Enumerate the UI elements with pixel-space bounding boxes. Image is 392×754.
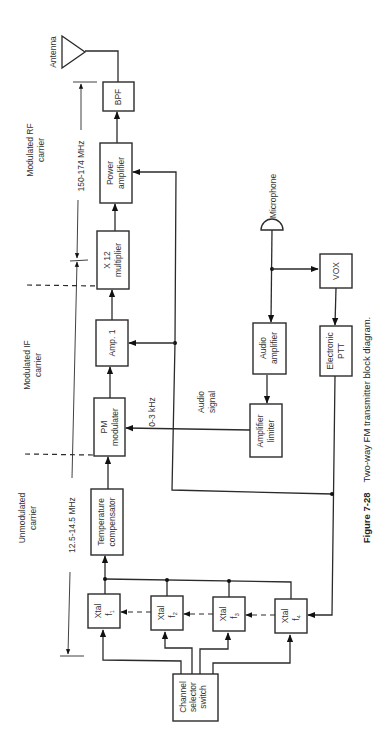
antenna-icon [62, 36, 118, 82]
block-xtal-f1: Xtal f1 [88, 594, 120, 628]
block-power-amplifier: Power amplifier [100, 143, 132, 203]
svg-text:X 12: X 12 [102, 251, 112, 269]
region-unmod-label-1: Unmodulated [17, 492, 27, 543]
block-vox: VOX [320, 254, 352, 288]
block-bpf: BPF [103, 82, 134, 111]
microphone-label: Microphone [268, 174, 278, 219]
audio-signal-label-2: signal [207, 391, 217, 413]
svg-text:Amplifier: Amplifier [255, 414, 265, 447]
svg-text:Power: Power [105, 161, 115, 185]
line-sel-to-f3 [200, 633, 228, 674]
svg-text:PTT: PTT [336, 343, 346, 359]
block-audio-amplifier: Audio amplifier [253, 323, 286, 374]
block-temperature-compensator: Temperature compensator [91, 489, 123, 555]
line-mic-to-audio-amp [271, 230, 272, 322]
region-rf-label-2: carrier [36, 138, 46, 162]
block-amp1: Amp. 1 [96, 320, 128, 366]
svg-text:Temperature: Temperature [96, 498, 106, 546]
block-pm-modulater: PM modulater [94, 398, 125, 456]
region-unmod-label-2: carrier [28, 506, 38, 530]
block-amplifier-limiter: Amplifier limiter [250, 404, 282, 457]
figure-caption: Figure 7-28Two-way FM transmitter block … [361, 317, 372, 543]
svg-text:Xtal: Xtal [93, 604, 103, 619]
audio-signal-label-1: Audio [196, 391, 206, 413]
svg-text:limiter: limiter [266, 420, 276, 443]
audio-band-label: 0-3 kHz [147, 397, 157, 426]
svg-text:modulater: modulater [110, 408, 120, 446]
block-channel-selector-switch: Channel selector switch [173, 674, 218, 721]
antenna-label: Antenna [48, 36, 58, 68]
arrow-limiter-to-pm [126, 428, 250, 430]
line-sel-to-f1 [103, 630, 181, 674]
svg-text:multiplier: multiplier [113, 243, 123, 277]
svg-text:selector: selector [188, 682, 198, 712]
block-xtal-f3: Xtal f3 [213, 597, 245, 631]
svg-text:VOX: VOX [331, 262, 341, 280]
block-xtal-f2: Xtal f2 [151, 596, 183, 630]
region-if-label-2: carrier [33, 353, 43, 377]
svg-text:Electronic: Electronic [325, 332, 335, 370]
svg-text:amplifier: amplifier [116, 157, 126, 189]
block-xtal-f4: Xtal f4 [275, 599, 307, 633]
region-if-label-1: Modulated IF [22, 340, 32, 390]
if-band-label: 12.5-14.5 MHz [67, 497, 77, 553]
svg-text:PM: PM [99, 421, 109, 434]
rf-band-label: 150-174 MHz [76, 140, 86, 191]
separator-rf-if [27, 285, 97, 286]
svg-text:Amp. 1: Amp. 1 [107, 329, 117, 356]
svg-text:Xtal: Xtal [218, 607, 228, 622]
arrow-vox-to-ptt [335, 288, 336, 325]
svg-text:compensator: compensator [107, 497, 117, 546]
line-ptt-control-bus [133, 172, 332, 494]
region-rf-label-1: Modulated RF [25, 123, 35, 176]
block-electronic-ptt: Electronic PTT [320, 326, 352, 376]
svg-text:Xtal: Xtal [156, 606, 166, 621]
xtal-output-bus [105, 579, 291, 599]
svg-text:Audio: Audio [258, 337, 268, 359]
fm-transmitter-block-diagram: Antenna BPF Power amplifier X 12 multipl… [0, 0, 392, 754]
microphone-icon [261, 219, 283, 230]
svg-text:Xtal: Xtal [280, 609, 290, 624]
svg-text:switch: switch [198, 685, 208, 709]
separator-if-unmod [25, 454, 93, 455]
svg-text:amplifier: amplifier [269, 332, 279, 364]
block-x12-multiplier: X 12 multiplier [97, 231, 129, 289]
line-sel-to-f2 [165, 632, 192, 674]
line-sel-to-f4 [213, 635, 290, 674]
svg-text:BPF: BPF [113, 89, 123, 106]
svg-text:Channel: Channel [178, 681, 188, 713]
